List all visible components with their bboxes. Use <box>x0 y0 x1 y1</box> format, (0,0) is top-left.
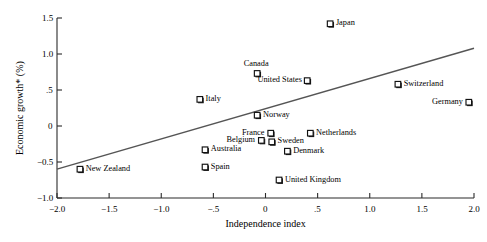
point-label-united-kingdom: United Kingdom <box>285 176 341 184</box>
y-axis-title: Economic growth* (%) <box>14 61 25 155</box>
point-label-norway: Norway <box>263 111 290 119</box>
x-axis-title: Independence index <box>226 218 306 229</box>
point-label-australia: Australia <box>211 145 241 153</box>
data-point-netherlands <box>308 130 314 136</box>
x-tick-label: 1.5 <box>416 204 427 214</box>
y-tick-label: 1.5 <box>42 13 53 23</box>
data-point-sweden <box>269 139 275 145</box>
y-tick-label: −0.5 <box>37 157 53 167</box>
point-label-belgium: Belgium <box>227 136 256 144</box>
y-tick-label: 1.0 <box>42 49 53 59</box>
point-label-new-zealand: New Zealand <box>86 165 130 173</box>
data-point-japan <box>327 21 333 27</box>
chart-canvas <box>0 0 487 242</box>
point-label-japan: Japan <box>336 19 355 27</box>
data-point-united-states <box>304 78 310 84</box>
data-point-switzerland <box>395 81 401 87</box>
data-point-australia <box>202 147 208 153</box>
point-label-germany: Germany <box>432 98 463 106</box>
x-tick-label: 2.0 <box>469 204 480 214</box>
data-point-denmark <box>285 148 291 154</box>
scatter-chart: −2.0−1.5−1.0−.50.51.01.52.0−1.0−0.50.51.… <box>0 0 487 242</box>
data-point-germany <box>466 99 472 105</box>
x-tick-label: 0 <box>263 204 268 214</box>
data-markers <box>77 21 473 184</box>
x-tick-label: −.5 <box>207 204 219 214</box>
point-label-spain: Spain <box>211 163 230 171</box>
point-label-italy: Italy <box>206 95 221 103</box>
x-tick-label: −1.5 <box>101 204 117 214</box>
point-label-sweden: Sweden <box>278 137 304 145</box>
data-point-belgium <box>259 138 265 144</box>
x-tick-label: −2.0 <box>49 204 65 214</box>
data-point-norway <box>254 112 260 118</box>
y-tick-label: −1.0 <box>37 193 53 203</box>
point-label-united-states: United States <box>257 76 301 84</box>
data-point-italy <box>197 97 203 103</box>
x-tick-label: 1.0 <box>364 204 375 214</box>
x-tick-label: −1.0 <box>153 204 169 214</box>
point-label-canada: Canada <box>244 60 269 68</box>
data-point-new-zealand <box>77 166 83 172</box>
y-tick-label: 0 <box>48 121 53 131</box>
data-point-spain <box>202 164 208 170</box>
y-tick-label: .5 <box>46 85 53 95</box>
data-point-united-kingdom <box>276 177 282 183</box>
point-label-switzerland: Switzerland <box>404 80 444 88</box>
point-label-denmark: Denmark <box>293 147 324 155</box>
point-label-netherlands: Netherlands <box>316 129 356 137</box>
x-tick-label: .5 <box>314 204 321 214</box>
data-point-france <box>268 130 274 136</box>
